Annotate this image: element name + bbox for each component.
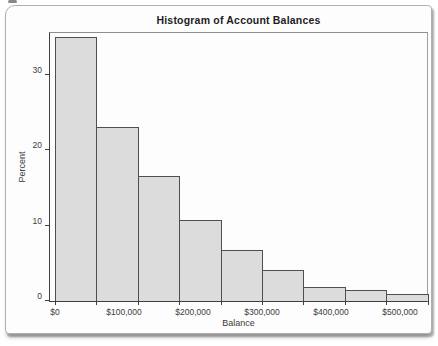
x-axis-tick bbox=[179, 301, 180, 305]
x-tick-label: $100,000 bbox=[106, 307, 141, 317]
x-tick-label: $0 bbox=[50, 307, 59, 317]
histogram-bar bbox=[262, 270, 304, 301]
scan-artifact bbox=[8, 0, 17, 3]
x-axis-label: Balance bbox=[49, 318, 428, 328]
x-axis-tick bbox=[55, 301, 56, 305]
y-axis-tick bbox=[45, 149, 50, 150]
x-axis-tick bbox=[303, 301, 304, 305]
histogram-bar bbox=[386, 294, 428, 301]
histogram-bar bbox=[345, 290, 387, 301]
y-tick-label: 20 bbox=[33, 140, 42, 150]
x-axis-tick bbox=[96, 301, 97, 305]
y-axis-tick bbox=[45, 225, 50, 226]
histogram-bar bbox=[221, 250, 263, 301]
x-tick-label: $400,000 bbox=[313, 307, 348, 317]
x-tick-label: $200,000 bbox=[175, 307, 210, 317]
y-axis-tick bbox=[45, 74, 50, 75]
x-axis-tick bbox=[345, 301, 346, 305]
y-tick-label: 10 bbox=[33, 216, 42, 226]
chart-title: Histogram of Account Balances bbox=[49, 14, 428, 26]
histogram-bar bbox=[303, 287, 345, 301]
histogram-bar bbox=[55, 37, 97, 301]
x-axis-tick bbox=[221, 301, 222, 305]
histogram-bar bbox=[138, 176, 180, 301]
y-axis-label: Percent bbox=[17, 151, 27, 182]
y-tick-label: 30 bbox=[33, 65, 42, 75]
y-tick-label: 0 bbox=[37, 291, 42, 301]
x-axis-tick bbox=[262, 301, 263, 305]
x-tick-label: $500,000 bbox=[382, 307, 417, 317]
x-axis-tick bbox=[386, 301, 387, 305]
chart-card: Histogram of Account Balances $0$100,000… bbox=[5, 5, 432, 334]
x-axis-tick bbox=[138, 301, 139, 305]
plot-area: $0$100,000$200,000$300,000$400,000$500,0… bbox=[49, 32, 428, 302]
histogram-bar bbox=[96, 127, 138, 301]
x-tick-label: $300,000 bbox=[244, 307, 279, 317]
x-axis-tick bbox=[428, 301, 429, 305]
histogram-bar bbox=[179, 220, 221, 301]
y-axis-tick bbox=[45, 300, 50, 301]
